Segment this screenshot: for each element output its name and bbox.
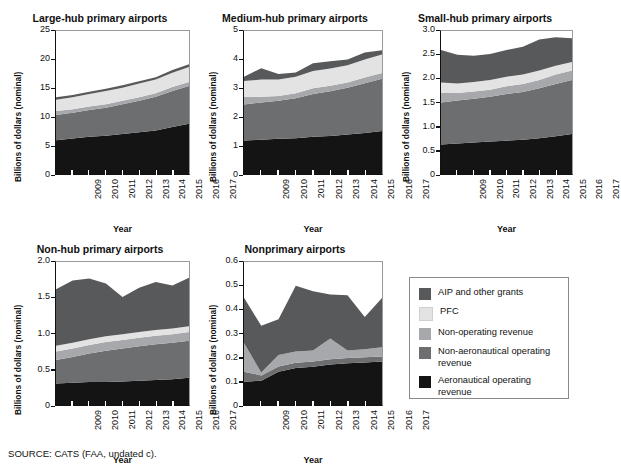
x-tick-label: 2014 bbox=[369, 179, 379, 213]
panel-title-small-hub: Small-hub primary airports bbox=[390, 12, 580, 24]
y-tick-label: 1 bbox=[207, 140, 238, 150]
y-tick-label: 0.1 bbox=[207, 376, 238, 386]
y-tick-label: 0.5 bbox=[404, 145, 435, 155]
x-tick-label: 2011 bbox=[127, 410, 137, 444]
panel-medium-hub: Medium-hub primary airports Billions of … bbox=[195, 12, 395, 237]
x-tick-mark bbox=[156, 170, 157, 175]
area-svg-small-hub bbox=[441, 31, 572, 174]
y-tick-label: 1.5 bbox=[19, 291, 50, 301]
x-tick-mark bbox=[295, 170, 296, 175]
y-tick-mark bbox=[51, 117, 55, 118]
x-tick-label: 2013 bbox=[161, 410, 171, 444]
x-tick-mark bbox=[156, 401, 157, 406]
panel-title-medium-hub: Medium-hub primary airports bbox=[195, 12, 395, 24]
y-tick-mark bbox=[51, 59, 55, 60]
x-tick-label: 2014 bbox=[561, 179, 571, 213]
x-tick-mark bbox=[489, 170, 490, 175]
y-tick-mark bbox=[436, 150, 440, 151]
x-tick-label: 2012 bbox=[334, 179, 344, 213]
x-tick-mark bbox=[506, 170, 507, 175]
x-tick-label: 2014 bbox=[177, 179, 187, 213]
x-tick-mark bbox=[172, 401, 173, 406]
source-note: SOURCE: CATS (FAA, undated c). bbox=[8, 448, 157, 459]
y-tick-mark bbox=[51, 88, 55, 89]
y-tick-mark bbox=[51, 369, 55, 370]
x-tick-label: 2011 bbox=[511, 179, 521, 213]
y-tick-mark bbox=[239, 333, 243, 334]
y-tick-label: 1.5 bbox=[404, 97, 435, 107]
x-tick-label: 2014 bbox=[369, 410, 379, 444]
x-tick-label: 2012 bbox=[144, 410, 154, 444]
x-tick-label: 2017 bbox=[421, 410, 431, 444]
y-tick-label: 0 bbox=[19, 169, 50, 179]
legend: AIP and other grantsPFCNon-operating rev… bbox=[409, 277, 569, 399]
y-tick-label: 2.5 bbox=[404, 48, 435, 58]
x-tick-label: 2009 bbox=[93, 410, 103, 444]
y-tick-mark bbox=[436, 175, 440, 176]
x-tick-label: 2013 bbox=[351, 179, 361, 213]
x-tick-label: 2016 bbox=[594, 179, 604, 213]
x-tick-label: 2010 bbox=[299, 410, 309, 444]
panel-title-large-hub: Large-hub primary airports bbox=[0, 12, 200, 24]
y-tick-label: 0 bbox=[19, 400, 50, 410]
y-tick-label: 2.0 bbox=[404, 72, 435, 82]
x-tick-mark bbox=[556, 170, 557, 175]
x-tick-mark bbox=[473, 170, 474, 175]
x-tick-label: 2010 bbox=[110, 410, 120, 444]
area-svg-medium-hub bbox=[244, 31, 382, 174]
y-tick-mark bbox=[239, 117, 243, 118]
y-tick-label: 0.4 bbox=[207, 303, 238, 313]
y-tick-mark bbox=[436, 102, 440, 103]
x-tick-label: 2013 bbox=[161, 179, 171, 213]
y-tick-mark bbox=[239, 357, 243, 358]
y-axis-label-non-hub: Billions of dollars (nominal) bbox=[13, 305, 23, 415]
y-tick-label: 2 bbox=[207, 111, 238, 121]
x-tick-mark bbox=[330, 170, 331, 175]
x-tick-mark bbox=[71, 401, 72, 406]
y-tick-mark bbox=[239, 261, 243, 262]
y-tick-mark bbox=[51, 30, 55, 31]
x-tick-mark bbox=[139, 170, 140, 175]
x-tick-label: 2014 bbox=[177, 410, 187, 444]
x-tick-label: 2009 bbox=[281, 410, 291, 444]
legend-label-nonaero: Non-aeronautical operating revenue bbox=[438, 346, 558, 369]
x-tick-mark bbox=[295, 401, 296, 406]
legend-swatch-nonoperating bbox=[419, 328, 431, 340]
y-tick-mark bbox=[51, 297, 55, 298]
x-tick-mark bbox=[88, 170, 89, 175]
legend-item: PFC bbox=[419, 306, 560, 321]
y-tick-label: 1.0 bbox=[19, 328, 50, 338]
x-tick-mark bbox=[122, 401, 123, 406]
x-tick-label: 2012 bbox=[528, 179, 538, 213]
legend-label-nonoperating: Non-operating revenue bbox=[438, 327, 533, 339]
y-tick-label: 3 bbox=[207, 82, 238, 92]
y-tick-label: 2.0 bbox=[19, 255, 50, 265]
x-tick-mark bbox=[260, 401, 261, 406]
x-tick-label: 2009 bbox=[478, 179, 488, 213]
plot-area-medium-hub bbox=[243, 30, 383, 175]
y-tick-label: 3.0 bbox=[404, 24, 435, 34]
x-tick-mark bbox=[122, 170, 123, 175]
x-axis-label-large-hub: Year bbox=[55, 224, 190, 234]
y-tick-mark bbox=[51, 261, 55, 262]
y-tick-label: 0 bbox=[207, 169, 238, 179]
y-tick-mark bbox=[436, 126, 440, 127]
legend-item: Aeronautical operating revenue bbox=[419, 375, 560, 398]
x-tick-mark bbox=[88, 401, 89, 406]
x-tick-label: 2010 bbox=[110, 179, 120, 213]
y-tick-mark bbox=[239, 30, 243, 31]
y-tick-label: 1.0 bbox=[404, 121, 435, 131]
y-tick-label: 25 bbox=[19, 24, 50, 34]
y-tick-label: 4 bbox=[207, 53, 238, 63]
y-tick-label: 0.2 bbox=[207, 352, 238, 362]
x-tick-mark bbox=[139, 401, 140, 406]
panel-small-hub: Small-hub primary airports Billions of d… bbox=[390, 12, 580, 237]
legend-label-pfc: PFC bbox=[440, 306, 459, 318]
y-tick-mark bbox=[51, 146, 55, 147]
x-tick-label: 2013 bbox=[351, 410, 361, 444]
x-tick-mark bbox=[539, 170, 540, 175]
x-tick-mark bbox=[277, 401, 278, 406]
x-tick-label: 2011 bbox=[316, 410, 326, 444]
plot-area-nonprimary bbox=[243, 261, 383, 406]
legend-swatch-aero bbox=[419, 376, 431, 388]
